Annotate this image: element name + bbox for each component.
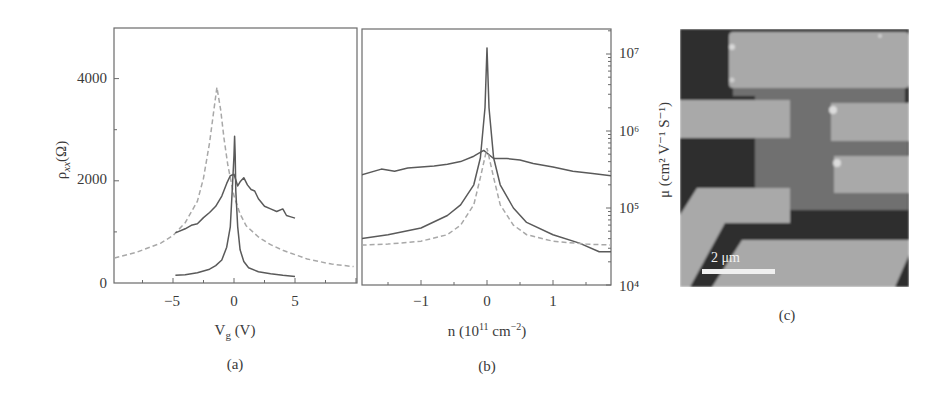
- panel-a-caption: (a): [227, 356, 244, 373]
- panel-a-ylabel: ρxx(Ω): [53, 141, 72, 179]
- panel-c-caption: (c): [779, 307, 796, 324]
- panel-b-series-0: [362, 150, 613, 176]
- panel-b-xlabel: n (1011 cm−2): [448, 321, 527, 340]
- panel-a-xtick-neg5: −5: [164, 293, 180, 309]
- panel-a-series-0: [114, 87, 353, 266]
- panel-b-xtick-neg1: −1: [413, 293, 429, 309]
- panel-c-sem-image: 2 μm (c): [680, 29, 909, 324]
- scale-bar-label: 2 μm: [711, 250, 740, 265]
- panel-a-ytick-4000: 4000: [77, 70, 107, 86]
- panel-a-xtick-5: 5: [291, 293, 299, 309]
- scale-bar: [702, 269, 775, 274]
- panel-a-series-2: [175, 136, 295, 276]
- panel-b-series-2: [362, 148, 613, 245]
- panel-a-chart: 4000 2000 0 −5 0 5 Vg (V) ρxx(Ω) (a): [53, 28, 357, 373]
- panel-b-ylabel: μ (cm² V⁻¹ S⁻¹): [656, 102, 673, 198]
- panel-a-ytick-2000: 2000: [77, 171, 107, 187]
- panel-b-ytick-1e7: 10⁷: [619, 45, 639, 61]
- panel-a-xtick-0: 0: [230, 293, 238, 309]
- panel-b-xtick-0: 0: [483, 293, 491, 309]
- panel-a-ytick-0: 0: [100, 275, 108, 291]
- panel-b-caption: (b): [478, 358, 496, 375]
- panel-b-ytick-1e4: 10⁴: [619, 278, 639, 294]
- panel-a-xlabel: Vg (V): [215, 322, 256, 341]
- panel-b-chart: −1 0 1 10⁷ 10⁶ 10⁵ 10⁴ μ (cm² V⁻¹ S⁻¹) n…: [362, 29, 673, 375]
- panel-b-xtick-1: 1: [549, 293, 557, 309]
- panel-b-series: [362, 48, 613, 252]
- panel-a-series: [114, 87, 353, 276]
- figure: 4000 2000 0 −5 0 5 Vg (V) ρxx(Ω) (a) −1 …: [0, 0, 952, 405]
- panel-b-ytick-1e5: 10⁵: [619, 200, 639, 216]
- panel-b-ytick-1e6: 10⁶: [619, 123, 639, 139]
